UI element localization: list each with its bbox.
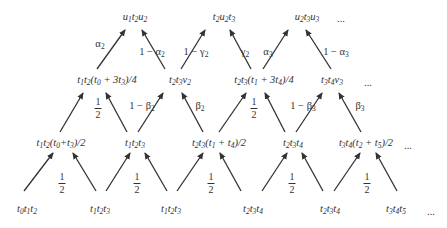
arrow-15: [73, 153, 96, 191]
weight-label-w8: 1 − β2: [129, 100, 155, 113]
weight-label-w16: 12: [289, 171, 296, 195]
ellipsis: ...: [364, 77, 372, 88]
node-r4d: t2t3t4: [243, 203, 263, 216]
node-r4f: t3t4t5: [386, 203, 406, 216]
arrow-6: [60, 93, 83, 132]
node-r3d: t2t3t4: [283, 137, 303, 150]
arrow-10: [219, 93, 246, 132]
weight-label-w5: α3: [263, 46, 272, 59]
weight-label-w3: 1 − γ2: [184, 46, 209, 59]
weight-label-w9: β2: [195, 100, 204, 113]
node-r1b: t2u2t3: [213, 11, 235, 24]
ellipsis: ...: [337, 13, 345, 24]
weight-label-w6: 1 − α3: [323, 46, 349, 59]
node-r3e: t3t4(t2 + t5)/2: [339, 137, 393, 150]
arrow-7: [106, 93, 127, 132]
arrow-14: [24, 153, 53, 191]
arrow-17: [145, 153, 167, 191]
weight-label-w10: 12: [251, 96, 258, 120]
arrow-21: [302, 153, 323, 191]
ellipsis: ...: [404, 140, 412, 151]
weight-label-w17: 12: [364, 171, 371, 195]
node-r4b: t1t2t3: [90, 203, 110, 216]
node-r2c: t2t3(t1 + 3t4)/4: [234, 74, 293, 87]
weight-label-w1: α2: [95, 38, 104, 51]
arrows-layer: [0, 0, 447, 228]
weight-label-w13: 12: [59, 171, 66, 195]
ellipsis: ...: [427, 206, 435, 217]
arrow-11: [265, 93, 285, 132]
weight-label-w12: β3: [355, 100, 364, 113]
arrow-16: [106, 153, 130, 191]
node-r3b: t1t2t3: [125, 137, 145, 150]
node-r1c: u2t3u3: [295, 11, 320, 24]
node-r4a: t0t1t2: [17, 203, 37, 216]
weight-label-w15: 12: [208, 171, 215, 195]
arrow-18: [177, 153, 203, 191]
node-r4c: t1t2t3: [161, 203, 181, 216]
arrow-22: [334, 153, 360, 191]
node-r2a: t1t2(t0 + 3t3)/4: [77, 74, 136, 87]
weight-label-w4: γ2: [241, 46, 249, 59]
weight-label-w14: 12: [134, 171, 141, 195]
node-r2d: t3t4v3: [321, 74, 343, 87]
pyramid-diagram: u1t2u2t2u2t3u2t3u3...t1t2(t0 + 3t3)/4t2t…: [0, 0, 447, 228]
weight-label-w2: 1 − α2: [139, 46, 165, 59]
node-r1a: u1t2u2: [123, 11, 148, 24]
node-r3a: t1t2(t0+t3)/2: [37, 137, 86, 150]
arrow-19: [220, 153, 241, 191]
weight-label-w11: 1 − β3: [290, 100, 316, 113]
arrow-23: [376, 153, 397, 191]
node-r3c: t2t3(t1 + t4)/2: [192, 137, 246, 150]
node-r2b: t2t3v2: [169, 74, 191, 87]
node-r4e: t2t3t4: [320, 203, 340, 216]
arrow-20: [262, 153, 287, 191]
weight-label-w7: 12: [95, 96, 102, 120]
